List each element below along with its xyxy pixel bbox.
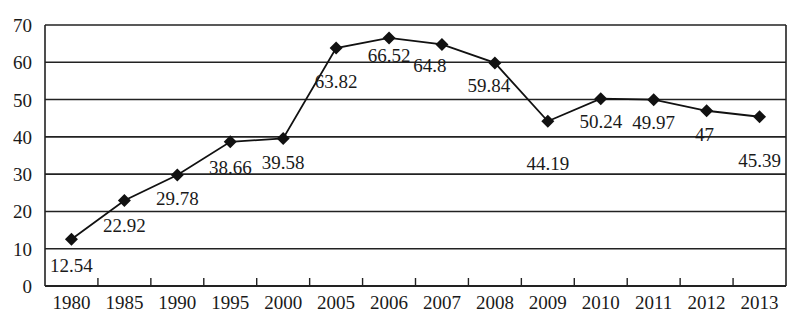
x-tick-label: 2011 <box>635 292 672 313</box>
data-label: 64.8 <box>413 55 446 76</box>
diamond-marker-icon <box>277 132 290 145</box>
diamond-marker-icon <box>383 31 396 44</box>
diamond-marker-icon <box>594 92 607 105</box>
data-label: 29.78 <box>156 188 199 209</box>
x-tick-label: 2006 <box>370 292 408 313</box>
x-tick-label: 1990 <box>158 292 196 313</box>
diamond-marker-icon <box>171 168 184 181</box>
diamond-marker-icon <box>330 42 343 55</box>
x-tick-label: 2010 <box>582 292 620 313</box>
data-labels: 12.5422.9229.7838.6639.5863.8266.5264.85… <box>50 45 781 276</box>
data-label: 66.52 <box>368 45 411 66</box>
diamond-marker-icon <box>753 110 766 123</box>
y-tick-label: 0 <box>23 276 33 297</box>
y-tick-label: 70 <box>13 15 32 36</box>
x-tick-label: 2013 <box>741 292 779 313</box>
y-tick-label: 60 <box>13 52 32 73</box>
diamond-marker-icon <box>435 38 448 51</box>
x-tick-label: 2008 <box>476 292 514 313</box>
data-label: 47 <box>695 124 714 145</box>
y-tick-label: 50 <box>13 90 32 111</box>
x-axis: 1980198519901995200020052006200720082009… <box>45 278 786 313</box>
data-label: 45.39 <box>738 150 781 171</box>
x-tick-label: 1995 <box>211 292 249 313</box>
data-label: 50.24 <box>579 111 622 132</box>
diamond-marker-icon <box>118 194 131 207</box>
data-label: 44.19 <box>526 153 569 174</box>
y-tick-label: 30 <box>13 164 32 185</box>
x-tick-label: 1985 <box>105 292 143 313</box>
data-label: 39.58 <box>262 152 305 173</box>
x-tick-label: 2009 <box>529 292 567 313</box>
x-tick-label: 2007 <box>423 292 461 313</box>
y-tick-label: 10 <box>13 239 32 260</box>
data-label: 63.82 <box>315 71 358 92</box>
diamond-marker-icon <box>700 104 713 117</box>
chart-canvas: 010203040506070 198019851990199520002005… <box>0 0 795 324</box>
x-tick-label: 2012 <box>688 292 726 313</box>
line-chart: 010203040506070 198019851990199520002005… <box>0 0 795 324</box>
y-tick-label: 40 <box>13 127 32 148</box>
x-tick-label: 2000 <box>264 292 302 313</box>
data-label: 12.54 <box>50 255 93 276</box>
data-label: 22.92 <box>103 215 146 236</box>
y-tick-label: 20 <box>13 201 32 222</box>
data-label: 59.84 <box>468 75 511 96</box>
diamond-marker-icon <box>65 233 78 246</box>
diamond-marker-icon <box>647 93 660 106</box>
data-label: 38.66 <box>209 157 252 178</box>
data-label: 49.97 <box>632 112 675 133</box>
x-tick-label: 2005 <box>317 292 355 313</box>
x-tick-label: 1980 <box>52 292 90 313</box>
